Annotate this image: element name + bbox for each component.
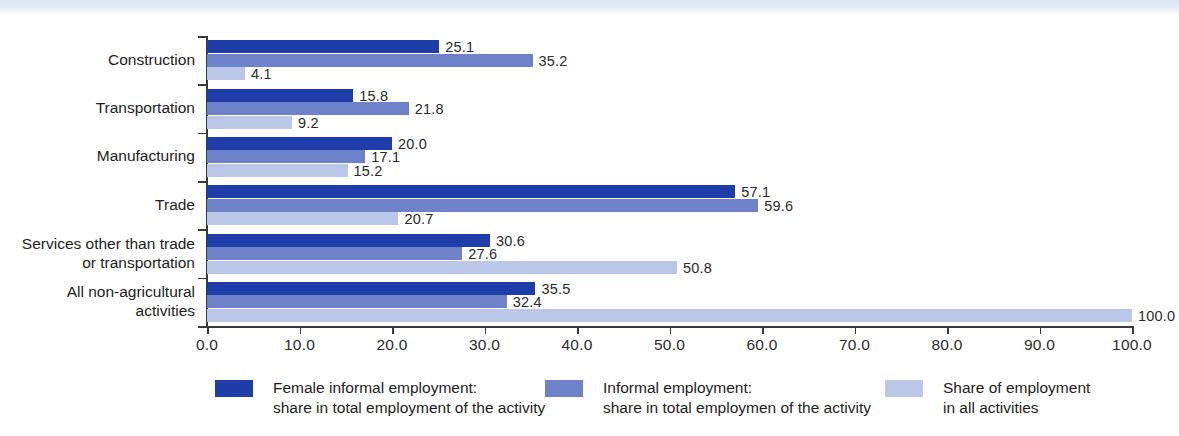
bar-value-label: 59.6 <box>764 200 793 213</box>
x-axis-tick <box>1040 326 1042 334</box>
x-axis-tick <box>392 326 394 334</box>
bar-value-label: 35.5 <box>541 283 570 296</box>
bar-value-label: 4.1 <box>251 68 272 81</box>
bar <box>207 309 1132 322</box>
bar <box>207 54 533 67</box>
chart-legend: Female informal employment: share in tot… <box>0 378 1179 426</box>
y-axis-tick <box>198 278 207 280</box>
category-label: All non-agricultural activities <box>5 282 195 320</box>
bar <box>207 295 507 308</box>
y-axis-tick <box>198 84 207 86</box>
bar-value-label: 50.8 <box>683 262 712 275</box>
x-axis-tick-label: 70.0 <box>839 336 870 354</box>
x-axis-tick-label: 0.0 <box>196 336 218 354</box>
bar-value-label: 35.2 <box>539 55 568 68</box>
bar <box>207 116 292 129</box>
legend-label: Female informal employment: share in tot… <box>273 378 545 418</box>
category-label: Manufacturing <box>5 146 195 165</box>
bar <box>207 67 245 80</box>
bar <box>207 234 490 247</box>
bar-value-label: 21.8 <box>415 103 444 116</box>
x-axis-tick <box>300 326 302 334</box>
x-axis-tick-label: 10.0 <box>284 336 315 354</box>
decorative-top-band <box>0 0 1179 13</box>
x-axis-tick <box>1132 326 1134 334</box>
bar <box>207 282 535 295</box>
x-axis-tick <box>762 326 764 334</box>
x-axis-tick-label: 30.0 <box>469 336 500 354</box>
x-axis-tick-label: 50.0 <box>654 336 685 354</box>
x-axis-tick <box>577 326 579 334</box>
bar <box>207 212 398 225</box>
x-axis-tick-label: 100.0 <box>1112 336 1152 354</box>
bar <box>207 89 353 102</box>
bar-value-label: 30.6 <box>496 235 525 248</box>
legend-item[interactable]: Female informal employment: share in tot… <box>215 378 545 418</box>
legend-swatch-icon <box>215 380 253 397</box>
bar <box>207 247 462 260</box>
category-label: Trade <box>5 195 195 214</box>
x-axis-tick-label: 80.0 <box>932 336 963 354</box>
bar <box>207 40 439 53</box>
x-axis-tick <box>485 326 487 334</box>
bar <box>207 137 392 150</box>
y-axis-tick <box>198 36 207 38</box>
category-label: Transportation <box>5 98 195 117</box>
x-axis-tick-label: 60.0 <box>747 336 778 354</box>
y-axis-tick <box>198 229 207 231</box>
plot-area: 0.010.020.030.040.050.060.070.080.090.01… <box>207 36 1132 326</box>
x-axis-tick <box>947 326 949 334</box>
legend-item[interactable]: Share of employment in all activities <box>885 378 1090 418</box>
x-axis-tick <box>670 326 672 334</box>
legend-item[interactable]: Informal employment: share in total empl… <box>545 378 871 418</box>
legend-label: Informal employment: share in total empl… <box>603 378 871 418</box>
bar <box>207 150 365 163</box>
bar-value-label: 15.8 <box>359 90 388 103</box>
x-axis-tick <box>207 326 209 334</box>
bar-value-label: 25.1 <box>445 41 474 54</box>
x-axis-tick-label: 20.0 <box>377 336 408 354</box>
bar <box>207 102 409 115</box>
bar <box>207 261 677 274</box>
legend-swatch-icon <box>545 380 583 397</box>
y-axis-tick <box>198 133 207 135</box>
legend-swatch-icon <box>885 380 923 397</box>
x-axis-tick-label: 40.0 <box>562 336 593 354</box>
bar-value-label: 20.0 <box>398 138 427 151</box>
bar <box>207 199 758 212</box>
legend-label: Share of employment in all activities <box>943 378 1090 418</box>
y-axis-tick <box>198 326 207 328</box>
bar-value-label: 20.7 <box>404 213 433 226</box>
bar-value-label: 27.6 <box>468 248 497 261</box>
category-label: Construction <box>5 50 195 69</box>
x-axis-tick-label: 90.0 <box>1024 336 1055 354</box>
x-axis-tick <box>855 326 857 334</box>
y-axis-tick <box>198 181 207 183</box>
bar-chart: ConstructionTransportationManufacturingT… <box>0 0 1179 436</box>
bar-value-label: 15.2 <box>354 165 383 178</box>
category-label: Services other than trade or transportat… <box>5 234 195 272</box>
bar-value-label: 9.2 <box>298 117 319 130</box>
bar-value-label: 32.4 <box>513 296 542 309</box>
bar-value-label: 100.0 <box>1138 310 1175 323</box>
bar <box>207 164 348 177</box>
bar <box>207 185 735 198</box>
